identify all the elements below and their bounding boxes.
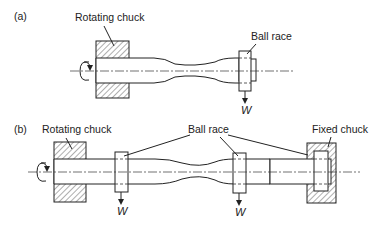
panel-a-label: (a) [14, 10, 27, 22]
ball-race-b-2 [233, 153, 246, 193]
load-label-b-1: W [117, 205, 129, 217]
fatigue-test-diagram: (a) Rotating chuck Ball race W (b) [0, 0, 374, 228]
specimen-a [96, 58, 240, 83]
fixed-chuck-b [270, 143, 336, 203]
fixed-chuck-label-b: Fixed chuck [312, 123, 369, 135]
panel-b-label: (b) [14, 123, 27, 135]
rotating-chuck-label-b: Rotating chuck [42, 123, 112, 135]
panel-a: (a) Rotating chuck Ball race W [14, 10, 294, 116]
leader-line [124, 135, 190, 156]
leader-line [220, 137, 238, 156]
load-label-a: W [241, 104, 253, 116]
ball-race-label-a: Ball race [251, 30, 292, 42]
ball-race-label-b: Ball race [188, 123, 229, 135]
leader-line [228, 135, 308, 155]
rotating-chuck-label-a: Rotating chuck [75, 11, 145, 23]
panel-b: (b) Rotating chuck Fixed chuck [14, 123, 369, 218]
load-label-b-2: W [235, 206, 247, 218]
